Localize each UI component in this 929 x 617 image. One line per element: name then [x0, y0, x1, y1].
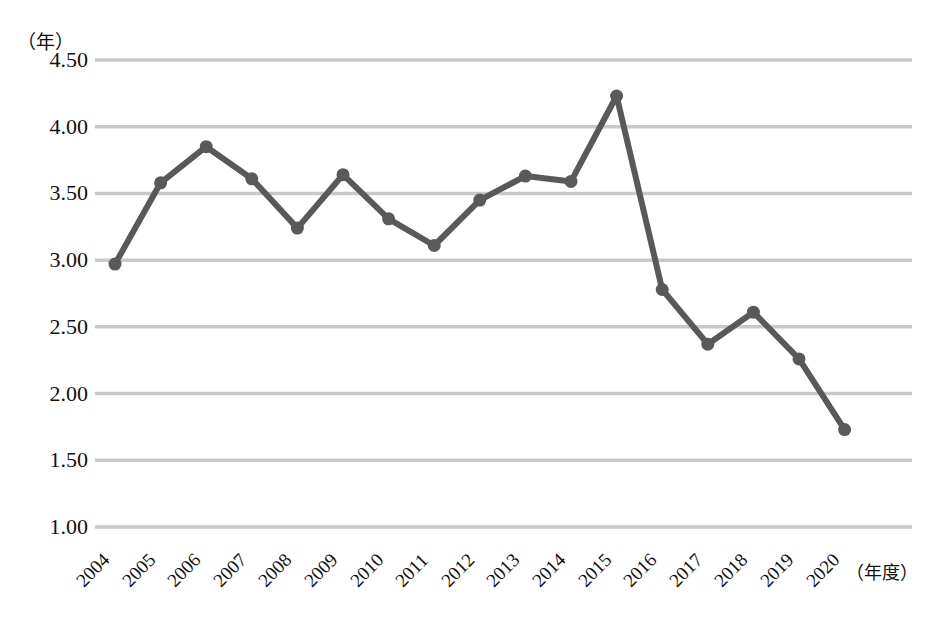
x-tick-label: 2017 — [665, 550, 705, 590]
x-tick-label: 2005 — [118, 550, 158, 590]
x-tick-label: 2020 — [802, 550, 842, 590]
x-tick-label: 2012 — [437, 550, 477, 590]
x-tick-label: 2011 — [392, 550, 432, 590]
x-tick-label: 2004 — [73, 550, 113, 590]
x-tick-label: 2016 — [620, 550, 660, 590]
x-tick-label: 2015 — [574, 550, 614, 590]
x-tick-label: 2008 — [255, 550, 295, 590]
x-tick-label: 2014 — [529, 550, 569, 590]
x-axis-unit-label: （年度） — [846, 558, 918, 584]
x-tick-label: 2009 — [301, 550, 341, 590]
x-axis-tick-labels: 2004200520062007200820092010201120122013… — [0, 0, 929, 617]
x-tick-label: 2010 — [346, 550, 386, 590]
x-tick-label: 2019 — [757, 550, 797, 590]
line-chart: （年） 4.504.003.503.002.502.001.501.00 200… — [0, 0, 929, 617]
x-tick-label: 2007 — [209, 550, 249, 590]
x-tick-label: 2018 — [711, 550, 751, 590]
x-tick-label: 2013 — [483, 550, 523, 590]
x-tick-label: 2006 — [164, 550, 204, 590]
